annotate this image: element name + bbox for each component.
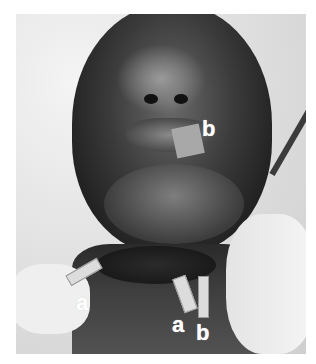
nose [144,94,194,112]
chin [104,164,244,244]
label-a-right-neck: a [172,314,184,336]
clamp-right-b [198,276,209,318]
label-b-right-neck: b [196,322,209,344]
tape-strip [171,123,205,158]
clinical-photograph [16,14,306,354]
label-b-mouth: b [202,118,215,140]
label-a-left-neck: a [76,292,88,314]
gloved-hand-right [226,214,306,354]
